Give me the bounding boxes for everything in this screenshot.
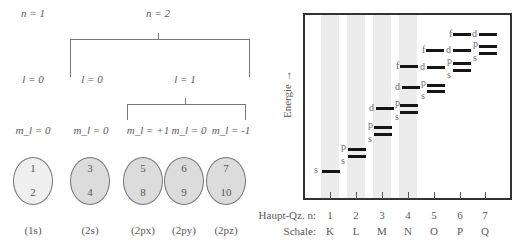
ml-label-2px: m_l = +1 — [127, 124, 169, 136]
electron-5: 5 — [124, 162, 162, 174]
level-label-5p: p — [421, 78, 426, 88]
electron-8: 8 — [124, 186, 162, 198]
tree-branch-l1 — [127, 104, 246, 105]
electron-4: 4 — [71, 186, 109, 198]
level-label-1s: s — [314, 165, 318, 175]
n-value-6: 6 — [457, 209, 463, 221]
n-value-3: 3 — [379, 209, 385, 221]
electron-2: 2 — [14, 186, 52, 198]
electron-6: 6 — [165, 162, 203, 174]
level-label-7d: d — [472, 29, 477, 39]
tree-drop-right — [249, 39, 250, 77]
electron-9: 9 — [165, 186, 203, 198]
level-6p — [453, 62, 471, 65]
level-6d — [453, 49, 471, 52]
ml-label-2pz: m_l = -1 — [212, 124, 251, 136]
shell-k: K — [326, 225, 334, 237]
ml-label-1s: m_l = 0 — [16, 124, 51, 136]
electron-7: 7 — [207, 162, 245, 174]
level-4s — [400, 111, 418, 114]
n-value-1: 1 — [327, 209, 333, 221]
n-value-4: 4 — [405, 209, 411, 221]
n-value-7: 7 — [482, 209, 488, 221]
tick-1 — [330, 192, 331, 199]
level-5p — [427, 84, 445, 87]
orbital-label-2s: (2s) — [81, 224, 98, 236]
tick-2 — [356, 192, 357, 199]
level-5d — [427, 66, 445, 69]
electron-3: 3 — [71, 162, 109, 174]
level-label-6f: f — [449, 29, 452, 39]
n-value-2: 2 — [353, 209, 359, 221]
level-label-7p: p — [473, 39, 478, 49]
n2-label: n = 2 — [146, 7, 170, 19]
orbital-label-2py: (2py) — [172, 224, 196, 236]
ml-label-2s: m_l = 0 — [74, 124, 109, 136]
level-3p — [374, 126, 392, 129]
energy-axis-label: Energie → — [281, 70, 293, 118]
orbital-2py: 6 9 — [164, 157, 204, 205]
tick-3 — [382, 192, 383, 199]
level-label-5f: f — [422, 45, 425, 55]
level-label-3s: s — [368, 134, 372, 144]
level-label-6d: d — [446, 45, 451, 55]
level-label-5s: s — [421, 91, 425, 101]
level-label-3d: d — [369, 103, 374, 113]
level-label-7s: s — [473, 53, 477, 63]
level-label-4f: f — [396, 61, 399, 71]
level-label-4d: d — [395, 82, 400, 92]
orbital-2pz: 7 10 — [206, 157, 246, 205]
level-2s — [348, 155, 366, 158]
tick-5 — [434, 192, 435, 199]
level-label-4s: s — [395, 112, 399, 122]
row-label-n-text: Haupt-Qz. n: — [259, 209, 316, 221]
level-4f — [400, 65, 418, 68]
orbital-label-2pz: (2pz) — [214, 224, 237, 236]
n1-label: n = 1 — [21, 7, 45, 19]
row-label-n: Haupt-Qz. n: — [259, 209, 316, 221]
tick-7 — [485, 192, 486, 199]
level-4d — [402, 86, 420, 89]
level-4p — [400, 104, 418, 107]
tree-branch-n2 — [70, 39, 250, 40]
level-5f — [426, 49, 444, 52]
row-label-shell: Schale: — [284, 225, 316, 237]
tree-drop-px — [127, 104, 128, 120]
n-value-5: 5 — [431, 209, 437, 221]
l-label-2s: l = 0 — [81, 73, 102, 85]
shell-l: L — [353, 225, 360, 237]
tick-4 — [408, 192, 409, 199]
orbital-label-1s: (1s) — [24, 224, 41, 236]
level-6f — [453, 33, 471, 36]
level-2p — [348, 148, 366, 151]
shell-p: P — [457, 225, 463, 237]
level-7d — [479, 33, 497, 36]
level-label-2s: s — [341, 156, 345, 166]
level-5s — [427, 90, 445, 93]
level-label-4p: p — [395, 98, 400, 108]
level-label-6p: p — [447, 56, 452, 66]
level-7p — [479, 45, 497, 48]
shell-o: O — [430, 225, 438, 237]
l-label-2p: l = 1 — [174, 73, 195, 85]
shell-q: Q — [481, 225, 489, 237]
level-7s — [479, 52, 497, 55]
shell-n: N — [404, 225, 412, 237]
shell-m: M — [377, 225, 387, 237]
level-label-6s: s — [447, 70, 451, 80]
tree-drop-left — [70, 39, 71, 77]
level-1s — [322, 170, 340, 173]
orbital-2px: 5 8 — [123, 157, 163, 205]
level-6s — [453, 69, 471, 72]
electron-10: 10 — [207, 186, 245, 198]
level-label-3p: p — [368, 120, 373, 130]
tick-6 — [460, 192, 461, 199]
level-3d — [376, 107, 394, 110]
orbital-label-2px: (2px) — [131, 224, 155, 236]
level-label-5d: d — [420, 62, 425, 72]
electron-1: 1 — [14, 162, 52, 174]
l-label-1s: l = 0 — [22, 73, 43, 85]
orbital-2s: 3 4 — [70, 157, 110, 205]
tree-drop-pz — [245, 104, 246, 120]
orbital-1s: 1 2 — [13, 157, 53, 205]
